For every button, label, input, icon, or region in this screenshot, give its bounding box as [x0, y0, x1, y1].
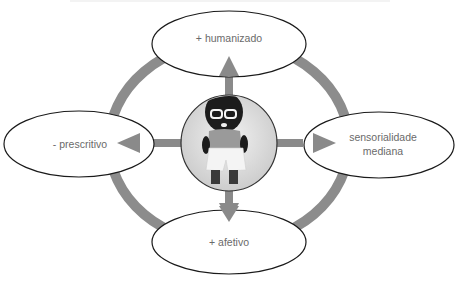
- node-top-label: + humanizado: [196, 32, 262, 44]
- node-right-label-line2: mediana: [363, 145, 403, 157]
- node-right-label-line1: sensorialidade: [349, 131, 417, 143]
- concept-diagram: + humanizado + afetivo - prescritivo sen…: [0, 0, 456, 285]
- node-top: + humanizado: [152, 11, 306, 77]
- center-photo: [181, 92, 277, 191]
- node-bottom-label: + afetivo: [209, 236, 249, 248]
- clipped-caption-strip: [70, 0, 390, 2]
- node-left: - prescritivo: [4, 111, 154, 177]
- node-right: sensorialidade mediana: [304, 112, 454, 178]
- node-left-label: - prescritivo: [53, 138, 107, 150]
- node-bottom: + afetivo: [152, 206, 306, 274]
